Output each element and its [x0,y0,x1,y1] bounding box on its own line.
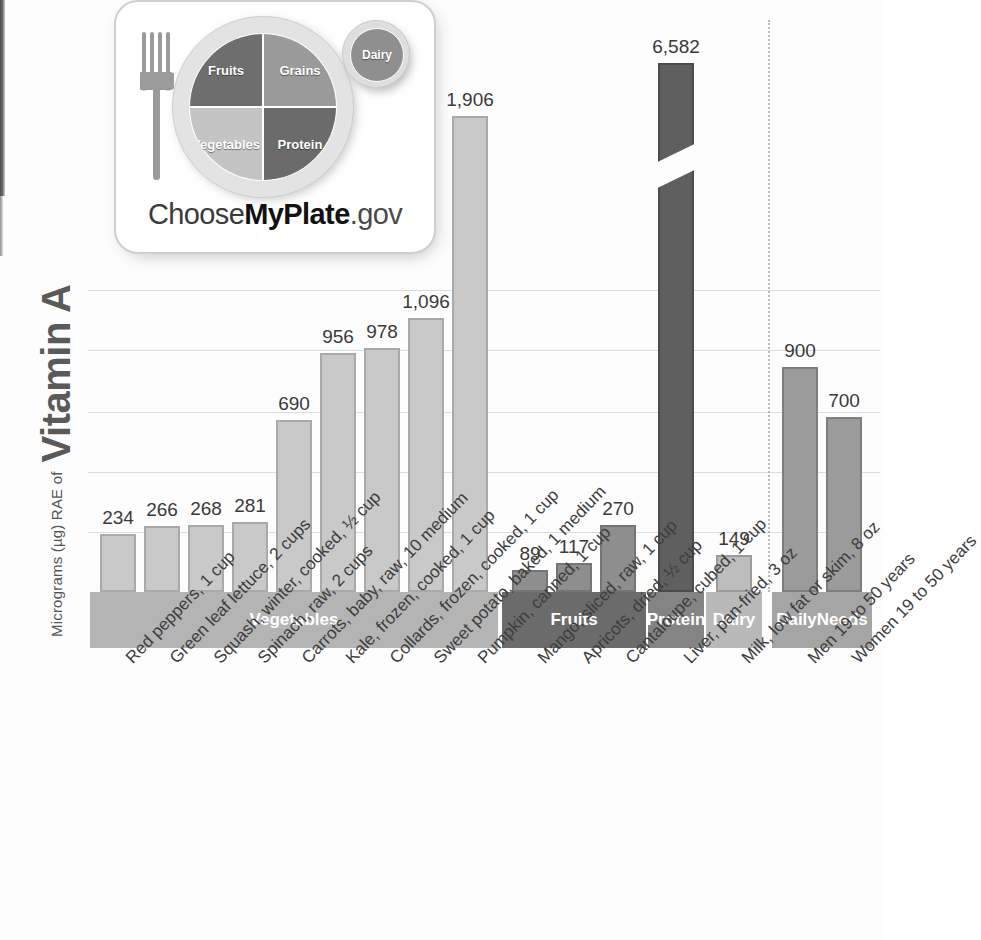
logo-wordmark: ChooseMyPlate.gov [116,198,434,231]
y-axis-title-nutrient: Vitamin A [34,285,79,463]
bar-value-label: 6,582 [642,36,710,58]
plate-segment-fruits: Fruits [189,33,263,107]
page-binding-edge-lower [0,196,3,256]
logo-word-myplate: MyPlate [244,198,349,230]
logo-word-choose: Choose [148,198,244,230]
dairy-ring: Dairy [342,20,410,88]
bar-vegetables [100,534,136,592]
bar-value-label: 281 [216,495,284,517]
bar-value-label: 1,906 [436,89,504,111]
bar-vegetables [144,526,180,592]
bar-value-label: 978 [348,321,416,343]
plate-segment-dairy: Dairy [350,28,404,82]
x-axis-labels: Red peppers, 1 cupGreen leaf lettuce, 2 … [0,650,884,930]
bar-value-label: 1,096 [392,291,460,313]
bar-value-label: 700 [810,390,878,412]
axis-break-slash [657,143,695,188]
plate-segment-vegetables: Vegetables [189,107,263,181]
plate-segment-protein: Protein [263,107,337,181]
myplate-logo: Fruits Grains Vegetables Protein Dairy C… [114,0,436,254]
bar-protein [658,63,694,592]
daily-needs-divider [768,20,770,592]
plate-segment-grains: Grains [263,33,337,107]
y-axis-title-units: Micrograms (µg) RAE of [48,471,65,637]
bar-value-label: 690 [260,393,328,415]
y-axis-title: Micrograms (µg) RAE of Vitamin A [6,90,80,610]
page-binding-edge [0,0,5,196]
fork-icon [140,32,174,182]
plate-rim: Fruits Grains Vegetables Protein [172,16,354,198]
bar-value-label: 900 [766,340,834,362]
plate-inner: Fruits Grains Vegetables Protein [189,33,337,181]
logo-word-gov: .gov [350,198,402,230]
